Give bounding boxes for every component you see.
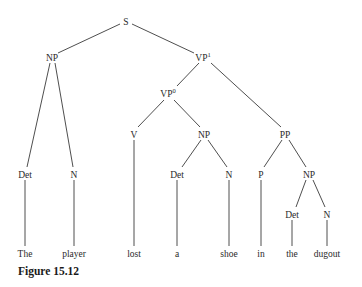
edge-vp1-pp xyxy=(211,63,281,127)
node-n-object: N xyxy=(226,170,233,180)
word-the: The xyxy=(18,249,33,259)
node-det-subject: Det xyxy=(18,170,32,180)
node-det-pp: Det xyxy=(285,210,299,220)
figure-caption: Figure 15.12 xyxy=(18,265,79,277)
edge-s-vp1 xyxy=(132,24,194,53)
word-a: a xyxy=(175,249,180,259)
node-np-object: NP xyxy=(198,130,210,140)
edge-vp0-v xyxy=(138,100,164,127)
word-dugout: dugout xyxy=(314,249,341,259)
edge-np2-n xyxy=(208,140,227,167)
node-np: NP xyxy=(46,53,58,63)
tree-words: The player lost a shoe in the dugout xyxy=(18,249,341,259)
edge-pp-p xyxy=(264,140,282,167)
edge-s-np xyxy=(58,24,120,53)
syntax-tree-diagram: S NP VP1 VP0 V NP PP Det N Det N P NP De… xyxy=(0,0,362,287)
edge-vp0-np xyxy=(174,100,200,127)
word-lost: lost xyxy=(127,249,141,259)
node-v: V xyxy=(131,130,138,140)
node-n-pp: N xyxy=(324,210,331,220)
node-n-subject: N xyxy=(71,170,78,180)
edge-pp-np xyxy=(289,140,306,167)
word-in: in xyxy=(257,249,265,259)
edge-np3-n xyxy=(313,180,325,207)
node-vp1: VP1 xyxy=(195,51,210,63)
node-p: P xyxy=(258,170,263,180)
edge-np-n xyxy=(55,63,73,167)
edge-np3-det xyxy=(296,180,306,207)
edge-np2-det xyxy=(182,140,201,167)
node-pp: PP xyxy=(280,130,291,140)
node-s: S xyxy=(123,17,128,27)
node-vp0: VP0 xyxy=(160,87,175,99)
word-player: player xyxy=(62,249,87,259)
edge-np-det xyxy=(27,63,50,167)
node-det-object: Det xyxy=(170,170,184,180)
word-shoe: shoe xyxy=(220,249,237,259)
node-np-pp: NP xyxy=(303,170,315,180)
word-the-2: the xyxy=(286,249,298,259)
edge-vp1-vp0 xyxy=(177,63,199,86)
